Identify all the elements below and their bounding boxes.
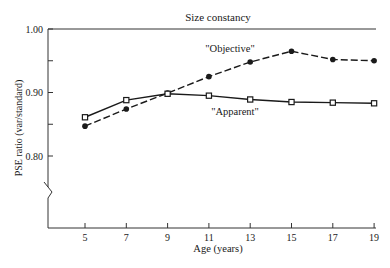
x-tick-label: 11 bbox=[204, 232, 214, 243]
y-axis-label: PSE ratio (var/standard) bbox=[13, 80, 25, 177]
data-point-apparent bbox=[372, 101, 377, 106]
x-tick-label: 19 bbox=[369, 232, 379, 243]
y-tick-label: 1.00 bbox=[26, 24, 44, 35]
axes: 0.800.901.005791113151719 bbox=[26, 24, 380, 244]
x-axis-label: Age (years) bbox=[193, 243, 243, 255]
data-point-apparent bbox=[330, 100, 335, 105]
data-point-objective bbox=[124, 106, 130, 112]
data-point-objective bbox=[247, 59, 253, 65]
x-tick-label: 7 bbox=[124, 232, 129, 243]
x-tick-label: 5 bbox=[83, 232, 88, 243]
data-point-objective bbox=[82, 123, 88, 129]
data-point-apparent bbox=[82, 115, 87, 120]
y-tick-label: 0.80 bbox=[26, 151, 44, 162]
x-tick-label: 17 bbox=[328, 232, 338, 243]
data-point-apparent bbox=[248, 97, 253, 102]
chart-title: Size constancy bbox=[185, 11, 251, 23]
apparent-annotation: "Apparent" bbox=[211, 106, 259, 117]
x-tick-label: 15 bbox=[287, 232, 297, 243]
data-point-objective bbox=[289, 48, 295, 54]
line-chart: Size constancy 0.800.901.005791113151719… bbox=[0, 0, 390, 268]
x-tick-label: 13 bbox=[245, 232, 255, 243]
data-point-objective bbox=[206, 74, 212, 80]
data-point-apparent bbox=[165, 91, 170, 96]
x-tick-label: 9 bbox=[165, 232, 170, 243]
data-point-objective bbox=[371, 58, 377, 64]
y-tick-label: 0.90 bbox=[26, 87, 44, 98]
data-point-apparent bbox=[124, 98, 129, 103]
objective-annotation: "Objective" bbox=[205, 43, 254, 54]
data-point-apparent bbox=[206, 93, 211, 98]
data-point-apparent bbox=[289, 99, 294, 104]
data-point-objective bbox=[330, 57, 336, 63]
